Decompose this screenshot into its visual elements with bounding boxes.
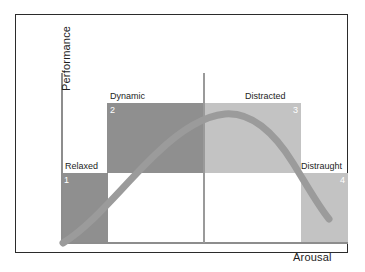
quadrant-label-distraught: Distraught	[301, 162, 342, 171]
quadrant-number-1: 1	[64, 176, 69, 185]
x-axis-title: Arousal	[293, 251, 332, 263]
quadrant-label-distracted: Distracted	[245, 92, 286, 101]
quadrant-number-4: 4	[340, 176, 345, 185]
yerkes-dodson-figure: 1 2 3 4 Relaxed Dynamic Distracted Distr…	[0, 0, 365, 272]
plot-area: 1 2 3 4 Relaxed Dynamic Distracted Distr…	[61, 73, 348, 244]
quadrant-label-dynamic: Dynamic	[110, 92, 145, 101]
quadrant-block-distracted	[204, 103, 301, 173]
quadrant-block-dynamic	[107, 103, 204, 173]
figure-frame: 1 2 3 4 Relaxed Dynamic Distracted Distr…	[15, 14, 348, 253]
quadrant-number-2: 2	[110, 106, 115, 115]
y-axis-title: Performance	[60, 0, 72, 91]
quadrant-number-3: 3	[293, 106, 298, 115]
y-axis-line	[61, 73, 63, 244]
quadrant-label-relaxed: Relaxed	[65, 162, 98, 171]
center-divider-line	[203, 73, 205, 243]
